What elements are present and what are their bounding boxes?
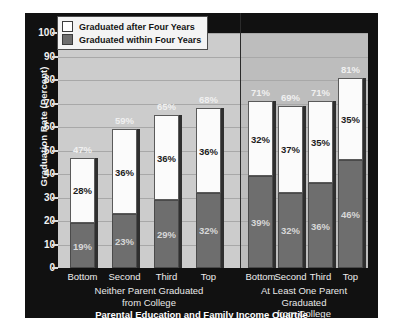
bar-label-after: 36% — [197, 147, 220, 157]
bar-segment-within[interactable]: 32% — [196, 193, 221, 268]
bar-segment-within[interactable]: 36% — [308, 183, 333, 268]
bar-label-after: 32% — [249, 135, 272, 145]
bar-segment-within[interactable]: 46% — [338, 160, 363, 268]
bar-segment-after[interactable]: 37% — [278, 106, 303, 193]
stacked-bar[interactable]: 19%28%47% — [70, 158, 95, 268]
bar-segment-within[interactable]: 39% — [248, 176, 273, 268]
bar-label-after: 36% — [113, 168, 136, 178]
bar-label-total: 59% — [112, 116, 137, 126]
stacked-bar[interactable]: 32%36%68% — [196, 108, 221, 268]
gridline — [58, 57, 368, 58]
bar-label-total: 65% — [154, 102, 179, 112]
stacked-bar[interactable]: 32%37%69% — [278, 106, 303, 268]
bar-segment-after[interactable]: 36% — [196, 108, 221, 193]
bar-label-after: 35% — [309, 138, 332, 148]
stacked-bar[interactable]: 36%35%71% — [308, 101, 333, 268]
bar-label-after: 37% — [279, 145, 302, 155]
bar-segment-after[interactable]: 32% — [248, 101, 273, 176]
x-tick-label: Top — [328, 271, 374, 282]
chart-panel: Graduation Rate (Percent) 01020304050607… — [25, 13, 378, 318]
group-caption: Neither Parent Graduatedfrom College — [58, 285, 240, 308]
bar-segment-after[interactable]: 28% — [70, 158, 95, 224]
x-tick-label: Bottom — [60, 271, 106, 282]
bar-label-within: 32% — [279, 226, 302, 236]
bar-segment-after[interactable]: 36% — [112, 129, 137, 214]
x-tick-label: Third — [144, 271, 190, 282]
stacked-bar[interactable]: 39%32%71% — [248, 101, 273, 268]
chart-legend: Graduated after Four Years Graduated wit… — [57, 16, 208, 50]
legend-item-within: Graduated within Four Years — [62, 33, 201, 46]
x-axis-title: Parental Education and Family Income Qua… — [25, 309, 378, 320]
bar-label-after: 28% — [71, 186, 94, 196]
x-tick-label: Second — [102, 271, 148, 282]
bar-segment-within[interactable]: 32% — [278, 193, 303, 268]
x-tick-label: Top — [186, 271, 232, 282]
bar-segment-after[interactable]: 36% — [154, 115, 179, 200]
bar-label-after: 35% — [339, 115, 362, 125]
bar-label-within: 36% — [309, 222, 332, 232]
bar-segment-within[interactable]: 19% — [70, 223, 95, 268]
legend-label-within: Graduated within Four Years — [79, 35, 201, 45]
bar-segment-within[interactable]: 23% — [112, 214, 137, 268]
bar-label-total: 69% — [278, 93, 303, 103]
gridline — [58, 80, 368, 81]
bar-label-within: 23% — [113, 237, 136, 247]
stacked-bar[interactable]: 46%35%81% — [338, 78, 363, 268]
bar-label-total: 68% — [196, 95, 221, 105]
bar-label-total: 47% — [70, 145, 95, 155]
bar-label-total: 81% — [338, 65, 363, 75]
stacked-bar[interactable]: 29%36%65% — [154, 115, 179, 268]
bar-label-within: 19% — [71, 242, 94, 252]
legend-item-after: Graduated after Four Years — [62, 20, 201, 33]
legend-label-after: Graduated after Four Years — [79, 22, 195, 32]
plot-area: 19%28%47%23%36%59%29%36%65%32%36%68%39%3… — [58, 33, 368, 268]
chart-figure: Graduation Rate (Percent) 01020304050607… — [0, 0, 398, 332]
group-caption-line1: At Least One Parent Graduated — [240, 285, 368, 308]
bar-label-total: 71% — [308, 88, 333, 98]
bar-label-total: 71% — [248, 88, 273, 98]
bar-label-within: 46% — [339, 210, 362, 220]
group-caption-line2: from College — [58, 297, 240, 309]
stacked-bar[interactable]: 23%36%59% — [112, 129, 137, 268]
group-caption-line1: Neither Parent Graduated — [58, 285, 240, 297]
bar-label-within: 29% — [155, 230, 178, 240]
bar-label-within: 32% — [197, 226, 220, 236]
legend-swatch-within-icon — [62, 34, 73, 45]
group-divider — [240, 13, 241, 268]
y-axis-ticks: 0102030405060708090100 — [25, 13, 55, 318]
bar-segment-after[interactable]: 35% — [308, 101, 333, 183]
bar-label-after: 36% — [155, 154, 178, 164]
bar-segment-within[interactable]: 29% — [154, 200, 179, 268]
bar-segment-after[interactable]: 35% — [338, 78, 363, 160]
bar-label-within: 39% — [249, 218, 272, 228]
legend-swatch-after-icon — [62, 21, 73, 32]
